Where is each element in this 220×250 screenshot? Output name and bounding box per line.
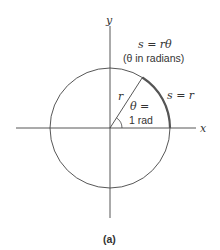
caption: (a) bbox=[103, 233, 116, 245]
angle-arc bbox=[117, 118, 123, 128]
formula-note: (θ in radians) bbox=[123, 52, 184, 64]
angle-label-line2: 1 rad bbox=[129, 114, 153, 126]
x-axis-label: x bbox=[200, 122, 207, 135]
arc-label: s = r bbox=[167, 89, 195, 102]
angle-label-line1: θ = bbox=[130, 100, 149, 113]
y-axis-label: y bbox=[105, 14, 113, 27]
radius-label: r bbox=[118, 90, 124, 103]
formula: s = rθ bbox=[138, 38, 172, 51]
radian-diagram: y x s = rθ (θ in radians) s = r r θ = 1 … bbox=[0, 0, 220, 250]
